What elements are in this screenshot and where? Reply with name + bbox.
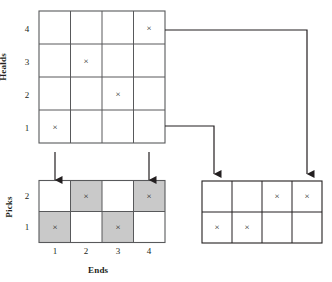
heald-tick-1: 1 xyxy=(21,123,33,133)
lifting-mark-col3-row2: × xyxy=(274,191,279,201)
diagram-canvas: × × × × × × × × xyxy=(0,0,332,282)
weaving-draft-diagram: × × × × × × × × xyxy=(0,0,332,282)
heald-tick-2: 2 xyxy=(21,90,33,100)
lifting-mark-col1-row1: × xyxy=(214,222,219,232)
peg-mark-end4-pick2: × xyxy=(146,191,151,201)
end-tick-4: 4 xyxy=(143,246,155,256)
healds-axis-title: Healds xyxy=(0,53,8,81)
peg-mark-end2-pick2: × xyxy=(83,191,88,201)
pick-tick-2: 2 xyxy=(21,191,33,201)
arrow-heald1-to-lifting-col1 xyxy=(165,126,214,174)
peg-mark-end3-pick1: × xyxy=(115,222,120,232)
peg-plan-grid xyxy=(39,181,165,243)
end-tick-1: 1 xyxy=(49,246,61,256)
end-tick-3: 3 xyxy=(112,246,124,256)
threading-mark-end3-heald2: × xyxy=(115,89,120,99)
threading-mark-end1-heald1: × xyxy=(52,122,57,132)
heald-tick-3: 3 xyxy=(21,57,33,67)
threading-mark-end2-heald3: × xyxy=(83,56,88,66)
lifting-mark-col4-row2: × xyxy=(304,191,309,201)
heald-tick-4: 4 xyxy=(21,24,33,34)
lifting-mark-col2-row1: × xyxy=(244,222,249,232)
picks-axis-title: Picks xyxy=(4,196,14,218)
peg-mark-end1-pick1: × xyxy=(52,222,57,232)
threading-mark-end4-heald4: × xyxy=(146,23,151,33)
ends-axis-title: Ends xyxy=(88,265,108,275)
end-tick-2: 2 xyxy=(80,246,92,256)
arrow-heald4-to-lifting-col4 xyxy=(165,30,307,174)
pick-tick-1: 1 xyxy=(21,222,33,232)
